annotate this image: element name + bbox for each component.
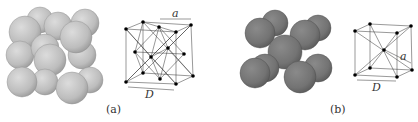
fcc-dim-d-label: D xyxy=(144,88,154,101)
fcc-dim-a-label: a xyxy=(172,7,179,20)
bcc-dim-a-label: a xyxy=(400,50,407,63)
bcc-sphere-model xyxy=(240,10,332,93)
caption-a: (a) xyxy=(106,103,121,116)
fcc-sphere-model xyxy=(6,7,103,104)
caption-b: (b) xyxy=(330,103,346,116)
bcc-dim-d-label: D xyxy=(371,81,381,94)
crystal-figure: a D (a) a D (b) xyxy=(0,0,418,122)
